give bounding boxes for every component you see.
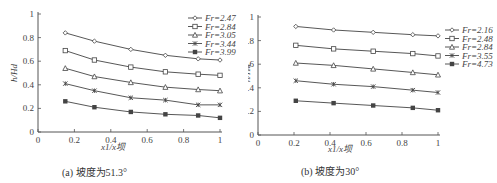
legend-label: Fr=4.73 (461, 59, 493, 69)
marker-square-icon (193, 24, 197, 28)
y-tick-label: 0 (250, 130, 255, 140)
y-tick-label: 0.4 (248, 83, 255, 93)
marker-filled-square-icon (196, 113, 200, 117)
marker-square-icon (436, 54, 440, 58)
marker-diamond-icon (411, 33, 415, 37)
y-tick-label: 0.2 (23, 103, 34, 113)
marker-diamond-icon (218, 58, 222, 62)
marker-filled-square-icon (294, 99, 298, 103)
data-series (294, 79, 441, 95)
chart-panel-b: 00.20.40.60.8100.20.40.60.81x1/x坝h/HdFr=… (248, 0, 497, 183)
y-tick-label: 1 (30, 9, 35, 19)
data-series (294, 24, 441, 38)
marker-square-icon (411, 51, 415, 55)
x-axis-label: x1/x坝 (100, 142, 126, 152)
data-series (63, 48, 222, 77)
marker-filled-square-icon (218, 116, 222, 120)
chart-a-caption: (a) 坡度为51.3° (62, 164, 127, 179)
series-line (65, 84, 220, 105)
marker-filled-square-icon (92, 105, 96, 109)
chart-b-plot: 00.20.40.60.8100.20.40.60.81x1/x坝h/HdFr=… (248, 0, 497, 183)
marker-diamond-icon (450, 28, 454, 32)
marker-square-icon (63, 48, 67, 52)
y-tick-label: 1 (250, 12, 255, 22)
marker-square-icon (163, 70, 167, 74)
x-tick-label: 1 (218, 135, 223, 145)
marker-square-icon (450, 36, 454, 40)
y-axis-label: h/Hd (9, 64, 19, 83)
marker-filled-square-icon (163, 112, 167, 116)
marker-diamond-icon (294, 24, 298, 28)
marker-square-icon (129, 65, 133, 69)
marker-diamond-icon (436, 34, 440, 38)
x-tick-label: 0.8 (396, 138, 408, 148)
legend-item: Fr=3.99 (188, 47, 236, 57)
y-tick-label: 0.8 (248, 36, 255, 46)
marker-square-icon (294, 43, 298, 47)
marker-square-icon (371, 49, 375, 53)
marker-square-icon (196, 72, 200, 76)
y-tick-label: 0.8 (23, 33, 35, 43)
chart-panel-a: 00.20.40.60.8100.20.40.60.81x1/x坝h/HdFr=… (0, 0, 248, 183)
x-tick-label: 0.8 (178, 135, 190, 145)
marker-filled-square-icon (331, 101, 335, 105)
marker-filled-square-icon (63, 99, 67, 103)
series-line (296, 63, 438, 75)
marker-filled-square-icon (129, 110, 133, 114)
marker-diamond-icon (193, 16, 197, 20)
chart-b-caption: (b) 坡度为30° (301, 163, 359, 178)
data-series (63, 99, 222, 120)
marker-filled-square-icon (193, 50, 197, 54)
marker-diamond-icon (371, 30, 375, 34)
legend-label: Fr=3.99 (204, 47, 236, 57)
marker-filled-square-icon (371, 103, 375, 107)
data-series (293, 60, 440, 77)
series-line (296, 101, 438, 110)
legend-item: Fr=4.73 (445, 59, 493, 69)
x-tick-label: 0.2 (288, 138, 299, 148)
series-line (296, 45, 438, 56)
y-axis-label: h/Hd (248, 64, 252, 83)
series-line (296, 81, 438, 93)
marker-triangle-icon (63, 66, 68, 71)
y-tick-label: 0.4 (23, 80, 35, 90)
series-line (296, 26, 438, 35)
x-tick-label: 0 (36, 135, 41, 145)
y-tick-label: 0.6 (23, 56, 35, 66)
x-tick-label: 0 (256, 138, 261, 148)
x-tick-label: 0.6 (142, 135, 154, 145)
y-tick-label: 0 (30, 127, 35, 137)
marker-square-icon (331, 47, 335, 51)
marker-diamond-icon (163, 53, 167, 57)
marker-filled-square-icon (450, 62, 454, 66)
x-axis-label: x1/x坝 (327, 144, 353, 154)
y-tick-label: 0.2 (248, 106, 254, 116)
data-series (63, 81, 222, 107)
marker-diamond-icon (92, 39, 96, 43)
marker-filled-square-icon (436, 108, 440, 112)
marker-diamond-icon (63, 31, 67, 35)
x-tick-label: 0.2 (69, 135, 80, 145)
marker-filled-square-icon (411, 106, 415, 110)
marker-diamond-icon (196, 57, 200, 61)
data-series (294, 43, 441, 58)
marker-diamond-icon (129, 47, 133, 51)
x-tick-label: 1 (436, 138, 441, 148)
chart-a-plot: 00.20.40.60.8100.20.40.60.81x1/x坝h/HdFr=… (0, 0, 248, 183)
data-series (294, 99, 441, 113)
marker-square-icon (92, 58, 96, 62)
x-tick-label: 0.6 (360, 138, 372, 148)
marker-diamond-icon (331, 28, 335, 32)
marker-square-icon (218, 73, 222, 77)
